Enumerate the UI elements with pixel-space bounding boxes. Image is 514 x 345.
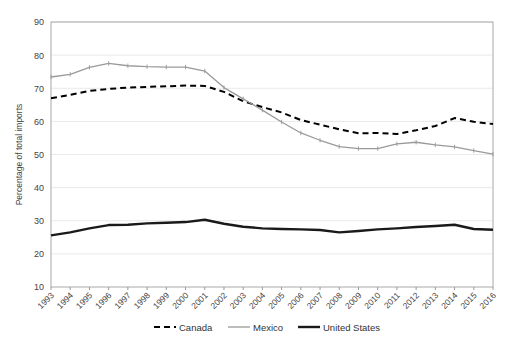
y-tick-label: 40 xyxy=(34,183,44,193)
x-tick-label: 1994 xyxy=(55,290,76,311)
x-tick-label: 1995 xyxy=(74,290,95,311)
y-tick-label: 30 xyxy=(34,216,44,226)
x-tick-label: 2001 xyxy=(189,290,210,311)
x-tick-label: 2008 xyxy=(324,290,345,311)
line-chart: 102030405060708090Percentage of total im… xyxy=(0,0,514,345)
x-tick-label: 2007 xyxy=(305,290,326,311)
y-axis-ticks: 102030405060708090 xyxy=(34,17,44,292)
x-tick-label: 2013 xyxy=(420,290,441,311)
series-line-united-states xyxy=(51,220,493,236)
chart-canvas: 102030405060708090Percentage of total im… xyxy=(0,0,514,345)
series-line-canada xyxy=(51,86,493,134)
x-tick-label: 1999 xyxy=(151,290,172,311)
x-tick-label: 2010 xyxy=(362,290,383,311)
series-group xyxy=(51,61,493,235)
x-tick-label: 2009 xyxy=(343,290,364,311)
legend-label-mexico: Mexico xyxy=(253,322,283,333)
legend: CanadaMexicoUnited States xyxy=(154,322,380,333)
gridlines xyxy=(51,22,493,254)
y-tick-label: 50 xyxy=(34,150,44,160)
x-tick-label: 2003 xyxy=(228,290,249,311)
x-tick-label: 2012 xyxy=(401,290,422,311)
x-tick-label: 2016 xyxy=(477,290,498,311)
x-tick-label: 2014 xyxy=(439,290,460,311)
x-axis-ticks: 1993199419951996199719981999200020012002… xyxy=(35,287,498,311)
x-tick-label: 2006 xyxy=(285,290,306,311)
x-tick-label: 1996 xyxy=(93,290,114,311)
x-tick-label: 2002 xyxy=(208,290,229,311)
y-tick-label: 20 xyxy=(34,249,44,259)
x-tick-label: 2005 xyxy=(266,290,287,311)
y-tick-label: 80 xyxy=(34,51,44,61)
x-tick-label: 1998 xyxy=(132,290,153,311)
y-axis-title: Percentage of total imports xyxy=(14,104,24,206)
x-tick-label: 1997 xyxy=(112,290,133,311)
x-tick-label: 2015 xyxy=(458,290,479,311)
x-tick-label: 2000 xyxy=(170,290,191,311)
x-tick-label: 2004 xyxy=(247,290,268,311)
y-tick-label: 70 xyxy=(34,84,44,94)
y-tick-label: 10 xyxy=(34,282,44,292)
x-tick-label: 1993 xyxy=(35,290,56,311)
y-tick-label: 60 xyxy=(34,117,44,127)
legend-label-canada: Canada xyxy=(179,322,213,333)
x-tick-label: 2011 xyxy=(382,290,402,310)
legend-label-united-states: United States xyxy=(323,322,380,333)
y-tick-label: 90 xyxy=(34,17,44,27)
